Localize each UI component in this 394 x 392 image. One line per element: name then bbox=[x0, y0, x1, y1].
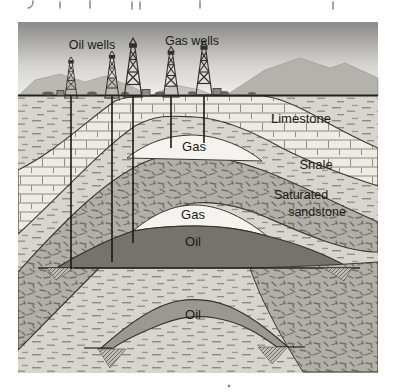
label-gas-lower: Gas bbox=[181, 207, 205, 222]
label-gas-upper: Gas bbox=[182, 139, 206, 154]
label-limestone: Limestone bbox=[271, 111, 331, 126]
geological-cross-section-figure: Oil wells Gas wells Limestone Shale Satu… bbox=[0, 0, 394, 392]
label-oil-lower: Oil bbox=[185, 307, 201, 322]
scan-speck bbox=[228, 385, 230, 387]
cropped-text-artifacts bbox=[28, 1, 333, 9]
label-saturated: Saturated bbox=[274, 188, 328, 202]
label-oil-upper: Oil bbox=[185, 234, 201, 249]
label-gas-wells: Gas wells bbox=[165, 34, 219, 48]
label-sandstone: sandstone bbox=[288, 205, 346, 219]
label-shale: Shale bbox=[299, 157, 332, 172]
label-oil-wells: Oil wells bbox=[69, 38, 116, 52]
